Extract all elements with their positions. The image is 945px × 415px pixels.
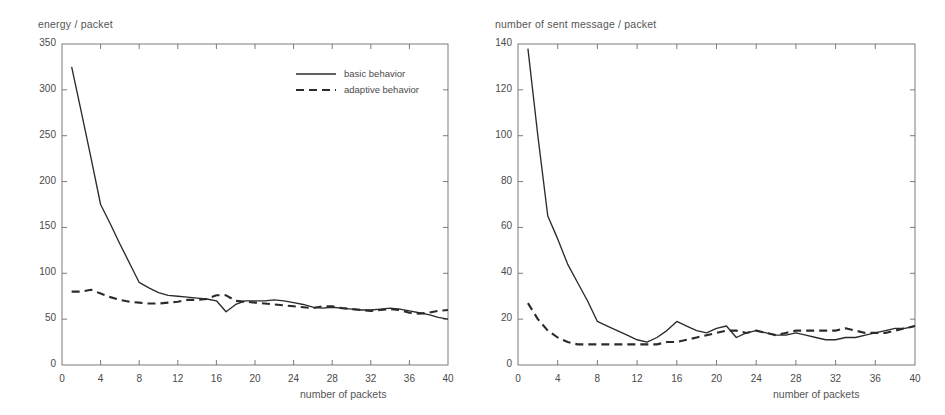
plot-area-right <box>473 0 945 415</box>
y-tick-label: 140 <box>476 37 512 48</box>
x-tick-label: 8 <box>581 373 613 384</box>
legend-label: adaptive behavior <box>344 84 419 95</box>
x-tick-label: 16 <box>661 373 693 384</box>
x-tick-label: 4 <box>542 373 574 384</box>
x-tick-label: 12 <box>162 373 194 384</box>
x-tick-label: 40 <box>432 373 464 384</box>
y-tick-label: 0 <box>476 358 512 369</box>
x-tick-label: 20 <box>239 373 271 384</box>
x-tick-label: 8 <box>123 373 155 384</box>
y-tick-label: 300 <box>20 83 56 94</box>
y-tick-label: 250 <box>20 129 56 140</box>
y-tick-label: 40 <box>476 266 512 277</box>
x-tick-label: 32 <box>820 373 852 384</box>
x-tick-label: 36 <box>859 373 891 384</box>
x-tick-label: 16 <box>200 373 232 384</box>
y-tick-label: 150 <box>20 220 56 231</box>
x-tick-label: 20 <box>701 373 733 384</box>
y-tick-label: 200 <box>20 175 56 186</box>
y-tick-label: 100 <box>476 129 512 140</box>
x-tick-label: 4 <box>85 373 117 384</box>
plot-area-left <box>0 0 473 415</box>
plot-frame <box>518 44 915 365</box>
series-line-adaptive-behavior <box>72 290 448 314</box>
series-line-basic-behavior <box>72 67 448 319</box>
legend-label: basic behavior <box>344 68 405 79</box>
x-tick-label: 28 <box>780 373 812 384</box>
y-tick-label: 60 <box>476 220 512 231</box>
x-tick-label: 0 <box>502 373 534 384</box>
x-tick-label: 0 <box>46 373 78 384</box>
y-tick-label: 100 <box>20 266 56 277</box>
x-tick-label: 12 <box>621 373 653 384</box>
chart-panel-left: energy / packetnumber of packets05010015… <box>0 0 473 415</box>
chart-panel-right: number of sent message / packetnumber of… <box>473 0 945 415</box>
y-tick-label: 120 <box>476 83 512 94</box>
x-tick-label: 24 <box>740 373 772 384</box>
series-line-adaptive-behavior <box>528 303 915 344</box>
y-tick-label: 20 <box>476 312 512 323</box>
figure-canvas: energy / packetnumber of packets05010015… <box>0 0 945 415</box>
x-tick-label: 32 <box>355 373 387 384</box>
y-tick-label: 50 <box>20 312 56 323</box>
x-tick-label: 24 <box>278 373 310 384</box>
y-tick-label: 0 <box>20 358 56 369</box>
x-tick-label: 28 <box>316 373 348 384</box>
series-line-basic-behavior <box>528 49 915 342</box>
x-tick-label: 40 <box>899 373 931 384</box>
y-tick-label: 350 <box>20 37 56 48</box>
x-tick-label: 36 <box>393 373 425 384</box>
y-tick-label: 80 <box>476 175 512 186</box>
